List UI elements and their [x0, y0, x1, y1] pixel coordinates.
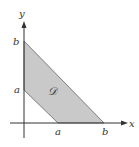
x-tick-b: b	[102, 126, 108, 137]
region-d	[24, 41, 104, 123]
region-diagram: x y b a a b 𝒟	[0, 0, 139, 147]
x-axis-arrow-icon	[121, 121, 128, 126]
y-axis-label: y	[18, 8, 25, 19]
y-tick-b: b	[13, 36, 19, 47]
x-axis-label: x	[129, 118, 135, 129]
y-axis-arrow-icon	[22, 21, 27, 28]
x-tick-a: a	[55, 126, 61, 137]
y-tick-a: a	[14, 84, 20, 95]
